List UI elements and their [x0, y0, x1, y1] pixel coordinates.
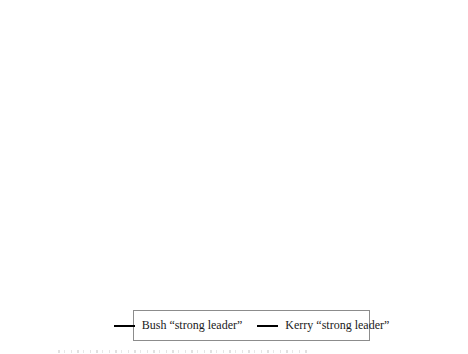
legend-entry-bush: Bush “strong leader”	[114, 318, 243, 333]
page: Bush “strong leader” Kerry “strong leade…	[0, 0, 468, 354]
cropped-caption-remnant	[58, 350, 310, 353]
chart-legend: Bush “strong leader” Kerry “strong leade…	[133, 310, 370, 341]
strong-leader-chart	[0, 0, 468, 308]
legend-label-kerry: Kerry “strong leader”	[285, 318, 389, 333]
legend-label-bush: Bush “strong leader”	[142, 318, 243, 333]
kerry-line-swatch	[257, 325, 278, 327]
legend-entry-kerry: Kerry “strong leader”	[257, 318, 389, 333]
bush-line-swatch	[114, 325, 135, 327]
